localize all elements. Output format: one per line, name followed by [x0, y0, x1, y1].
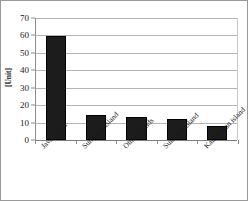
y-tick-label: 60: [20, 30, 29, 40]
plot-area: [35, 18, 238, 140]
y-tick-label: 50: [20, 48, 29, 58]
y-tick-label: 0: [25, 135, 30, 145]
bar-chart-figure: [Unit] 010203040506070 Java islandSumate…: [0, 0, 248, 201]
x-tick-mark: [238, 140, 239, 144]
bar-slot: [36, 18, 76, 140]
bar-series: [36, 18, 237, 140]
y-tick-label: 70: [20, 13, 29, 23]
y-axis-ticks: 010203040506070: [1, 18, 35, 140]
y-tick-label: 40: [20, 65, 29, 75]
y-tick-label: 30: [20, 83, 29, 93]
y-tick-label: 20: [20, 100, 29, 110]
y-tick-label: 10: [20, 118, 29, 128]
x-axis-labels: Java islandSumatera islandOther islandsS…: [35, 142, 238, 201]
